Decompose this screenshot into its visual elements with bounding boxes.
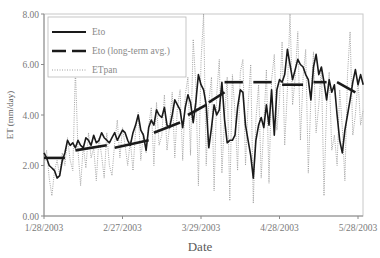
legend-label-avg: Eto (long-term avg.)	[92, 46, 170, 57]
x-tick-label: 3/29/2003	[182, 223, 221, 233]
x-tick-label: 4/28/2003	[260, 223, 299, 233]
y-tick-label: 8.00	[22, 10, 39, 20]
legend-label-eto: Eto	[92, 27, 105, 37]
y-axis-title: ET (mm/day)	[5, 91, 15, 140]
x-tick-label: 1/28/2003	[25, 223, 64, 233]
legend-label-etpan: ETpan	[92, 65, 118, 75]
legend: Eto Eto (long-term avg.) ETpan	[48, 17, 186, 77]
y-tick-label: 4.00	[22, 111, 39, 121]
x-axis-title: Date	[188, 239, 213, 254]
y-tick-label: 0.00	[22, 212, 39, 222]
et-chart: 0.002.004.006.008.00 1/28/20032/27/20033…	[0, 0, 380, 258]
x-ticks: 1/28/20032/27/20033/29/20034/28/20035/28…	[25, 216, 378, 233]
y-tick-label: 6.00	[22, 60, 39, 70]
y-tick-label: 2.00	[22, 161, 39, 171]
x-tick-label: 2/27/2003	[103, 223, 142, 233]
y-ticks: 0.002.004.006.008.00	[22, 10, 44, 222]
x-tick-label: 5/28/2003	[339, 223, 378, 233]
